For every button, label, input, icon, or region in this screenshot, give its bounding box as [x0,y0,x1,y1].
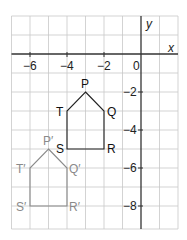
y-tick-label: −2 [123,85,137,99]
coordinate-grid: y x −6 −4 −2 0 −2 −4 −6 −8 P Q R S T P′ … [0,0,187,240]
x-axis-label: x [167,41,175,55]
vertex-label-p: P [81,77,89,91]
x-tick-label: −4 [60,59,74,73]
y-axis-label: y [145,17,153,31]
vertex-label-r: R [107,142,116,156]
x-tick-label: −2 [97,59,111,73]
x-tick-label: −6 [23,59,37,73]
x-tick-label: 0 [133,59,140,73]
grid-lines [12,16,179,229]
vertex-label-t-prime: T′ [16,162,26,176]
vertex-label-p-prime: P′ [43,134,54,148]
vertex-label-t: T [56,105,64,119]
y-tick-label: −4 [123,123,137,137]
vertex-label-s-prime: S′ [16,200,27,214]
vertex-label-s: S [56,142,64,156]
vertex-label-q-prime: Q′ [69,162,81,176]
vertex-label-q: Q [107,105,116,119]
y-tick-label: −8 [123,199,137,213]
y-tick-label: −6 [123,161,137,175]
vertex-label-r-prime: R′ [69,200,81,214]
